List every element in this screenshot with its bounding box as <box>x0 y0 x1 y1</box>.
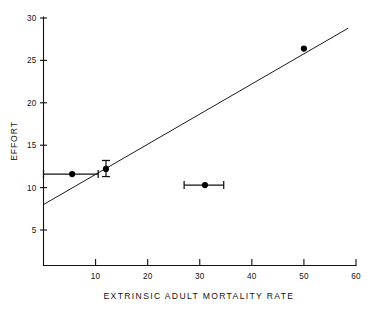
y-axis-label: EFFORT <box>9 121 19 161</box>
chart-figure: 51015202530 102030405060 EXTRINSIC ADULT… <box>0 0 373 312</box>
y-tick-label: 15 <box>27 141 37 150</box>
x-tick-label: 10 <box>91 272 101 281</box>
data-point-marker <box>301 45 307 51</box>
data-point-marker <box>202 182 208 188</box>
x-tick-label: 40 <box>247 272 257 281</box>
x-tick-label: 60 <box>351 272 361 281</box>
x-tick-label: 30 <box>195 272 205 281</box>
regression-line <box>44 28 349 204</box>
x-tick-label: 50 <box>299 272 309 281</box>
x-axis-ticks: 102030405060 <box>91 259 361 281</box>
data-point-marker <box>103 166 109 172</box>
y-tick-label: 30 <box>27 14 37 23</box>
y-tick-label: 10 <box>27 184 37 193</box>
y-tick-label: 25 <box>27 56 37 65</box>
y-tick-label: 5 <box>32 226 37 235</box>
y-tick-label: 20 <box>27 99 37 108</box>
data-points <box>69 45 307 188</box>
x-tick-label: 20 <box>143 272 153 281</box>
x-axis-label: EXTRINSIC ADULT MORTALITY RATE <box>104 291 295 301</box>
data-point-marker <box>69 171 75 177</box>
scatter-plot: 51015202530 102030405060 EXTRINSIC ADULT… <box>0 0 373 312</box>
